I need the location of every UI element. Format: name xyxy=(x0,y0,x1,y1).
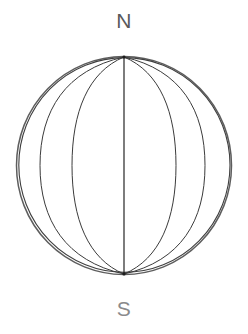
globe-diagram-figure: N S xyxy=(0,0,248,334)
south-pole-label: S xyxy=(104,298,144,319)
north-pole-label: N xyxy=(104,10,144,31)
meridian-west-inner xyxy=(72,57,124,274)
globe-wireframe-svg xyxy=(0,0,248,334)
north-pole-node xyxy=(122,55,125,58)
meridian-east-outer xyxy=(124,57,205,274)
meridian-east-inner xyxy=(124,57,176,274)
south-pole-node xyxy=(122,272,125,275)
meridian-west-outer xyxy=(40,57,124,274)
